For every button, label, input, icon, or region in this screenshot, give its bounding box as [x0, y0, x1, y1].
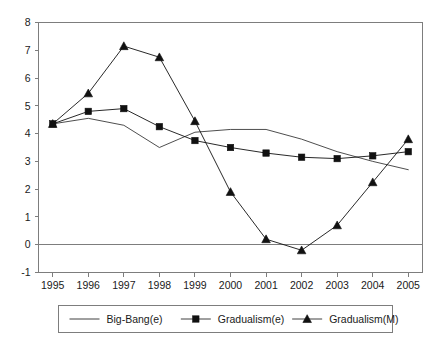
- data-point-triangle: [226, 188, 235, 196]
- y-tick-label: 7: [25, 44, 31, 56]
- data-point-square: [227, 144, 233, 150]
- line-chart: 876543210-1 1995199619971998199920002001…: [0, 0, 444, 346]
- y-axis: 876543210-1: [21, 16, 38, 278]
- y-tick-label: 2: [25, 183, 31, 195]
- data-point-triangle: [155, 53, 164, 61]
- y-tick-label: 4: [25, 127, 31, 139]
- x-tick-label: 1998: [148, 279, 172, 291]
- data-point-triangle: [120, 42, 129, 50]
- x-tick-label: 1999: [183, 279, 207, 291]
- y-tick-label: 3: [25, 155, 31, 167]
- chart-legend: Big-Bang(e)Gradualism(e)Gradualism(M): [59, 306, 399, 333]
- data-point-square: [192, 137, 198, 143]
- y-tick-label: -1: [21, 266, 30, 278]
- legend-label: Big-Bang(e): [107, 313, 163, 325]
- data-point-triangle: [191, 117, 200, 125]
- x-tick-label: 1996: [77, 279, 101, 291]
- data-point-square: [334, 155, 340, 161]
- data-series-group: [48, 42, 412, 254]
- x-tick-label: 2004: [361, 279, 385, 291]
- series-line: [53, 109, 409, 159]
- y-tick-label: 5: [25, 100, 31, 112]
- data-point-square: [121, 105, 127, 111]
- y-tick-label: 1: [25, 211, 31, 223]
- x-tick-label: 1995: [41, 279, 65, 291]
- x-tick-label: 1997: [112, 279, 136, 291]
- chart-container: 876543210-1 1995199619971998199920002001…: [0, 0, 444, 346]
- data-point-triangle: [297, 246, 306, 254]
- y-tick-label: 8: [25, 16, 31, 28]
- x-tick-label: 2003: [325, 279, 349, 291]
- data-point-triangle: [84, 89, 93, 97]
- data-point-square: [156, 123, 162, 129]
- data-point-square: [298, 154, 304, 160]
- x-tick-label: 2000: [219, 279, 243, 291]
- data-point-square: [405, 148, 411, 154]
- legend-label: Gradualism(e): [218, 313, 285, 325]
- data-point-square: [85, 108, 91, 114]
- y-tick-label: 0: [25, 238, 31, 250]
- data-point-square: [370, 153, 376, 159]
- legend-label: Gradualism(M): [329, 313, 398, 325]
- data-point-triangle: [404, 135, 413, 143]
- x-tick-label: 2002: [290, 279, 314, 291]
- data-point-square: [263, 150, 269, 156]
- x-tick-label: 2001: [254, 279, 278, 291]
- series-gradualism-e: [50, 105, 412, 161]
- x-axis: 1995199619971998199920002001200220032004…: [41, 273, 420, 291]
- x-tick-label: 2005: [397, 279, 421, 291]
- y-tick-label: 6: [25, 72, 31, 84]
- data-point-square: [193, 316, 199, 322]
- data-point-triangle: [262, 235, 271, 243]
